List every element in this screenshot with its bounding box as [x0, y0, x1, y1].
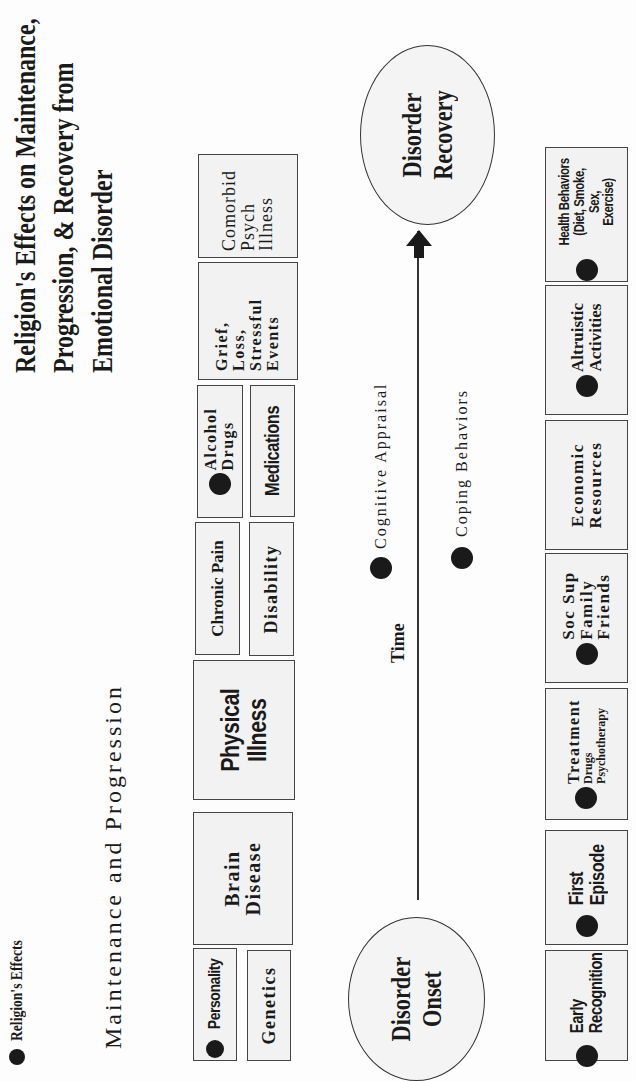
box-label: Treatment	[566, 699, 583, 784]
religion-effect-dot-icon	[575, 787, 597, 809]
religion-effect-dot-icon	[370, 557, 392, 579]
religion-effect-dot-icon	[451, 547, 473, 569]
box-social-support: Soc SupFamilyFriends	[545, 553, 628, 683]
box-altruistic-activities: AltruisticActivities	[545, 285, 628, 415]
title-line-1: Religion's Effects on Maintenance,	[6, 18, 44, 373]
religion-effect-dot-icon	[576, 915, 598, 937]
box-alcohol-drugs: AlcoholDrugs	[197, 385, 243, 518]
box-label: Drugs	[582, 753, 595, 784]
box-label: Alcohol	[203, 408, 220, 471]
box-label: Friends	[595, 574, 613, 640]
box-label: Physical	[217, 688, 244, 771]
box-label: Exercise)	[601, 178, 616, 225]
box-label: Personality	[206, 959, 224, 1030]
box-label: (Diet, Smoke, Sex,	[572, 158, 601, 247]
religion-effect-dot-icon	[576, 375, 598, 397]
box-label: Altruistic	[569, 303, 587, 372]
time-axis-line	[417, 231, 419, 900]
box-label: Loss,	[231, 328, 248, 371]
box-genetics: Genetics	[247, 950, 291, 1061]
box-label: Chronic Pain	[209, 540, 227, 637]
node-label: Recovery	[428, 90, 459, 180]
node-label: Disorder	[386, 957, 417, 1042]
coping-behaviors: Coping Behaviors	[451, 389, 473, 569]
node-label: Disorder	[397, 93, 428, 178]
box-label: Recognition	[587, 953, 606, 1034]
box-comorbid-psych-illness: ComorbidPsychIllness	[198, 154, 298, 258]
religion-effect-dot-icon	[576, 643, 598, 665]
box-grief-loss-stressful-events: Grief,Loss,StressfulEvents	[198, 262, 298, 380]
box-label: Disease	[243, 842, 264, 916]
box-label: Stressful	[248, 298, 265, 371]
box-label: Comorbid	[220, 170, 239, 251]
legend-label: Religion's Effects	[8, 940, 26, 1041]
religion-effect-dot-icon	[206, 1040, 224, 1058]
box-chronic-pain: Chronic Pain	[195, 522, 240, 655]
cognitive-appraisal: Cognitive Appraisal	[370, 383, 392, 579]
box-label: First	[566, 872, 587, 905]
box-label: Genetics	[260, 967, 279, 1045]
title-line-2: Progression, & Recovery from	[44, 18, 82, 373]
box-label: Resources	[587, 442, 605, 529]
box-physical-illness: PhysicalIllness	[193, 660, 295, 800]
title-line-3: Emotional Disorder	[83, 18, 121, 373]
box-economic-resources: EconomicResources	[545, 420, 628, 550]
box-label: Brain	[222, 850, 243, 906]
coping-behaviors-label: Coping Behaviors	[453, 389, 471, 537]
box-label: Events	[265, 316, 282, 371]
box-label: Psych	[239, 203, 258, 251]
box-health-behaviors: Health Behaviors(Diet, Smoke, Sex,Exerci…	[545, 147, 628, 282]
box-label: Illness	[257, 197, 276, 251]
box-label: Grief,	[214, 322, 231, 371]
node-label: Onset	[417, 971, 448, 1027]
box-label: Episode	[587, 845, 608, 906]
box-disability: Disability	[249, 522, 294, 656]
box-brain-disease: BrainDisease	[193, 812, 293, 945]
page-title: Religion's Effects on Maintenance, Progr…	[6, 18, 121, 373]
box-label: Illness	[244, 698, 271, 761]
box-early-recognition: EarlyRecognition	[545, 950, 628, 1061]
box-label: Disability	[262, 545, 281, 634]
disorder-onset-node: Disorder Onset	[348, 917, 485, 1081]
box-medications: Medications	[250, 385, 295, 517]
box-label: Soc Sup	[560, 571, 578, 640]
box-label: Medications	[262, 406, 283, 496]
cognitive-appraisal-label: Cognitive Appraisal	[372, 383, 390, 549]
legend: Religion's Effects	[8, 922, 26, 1065]
box-label: Psychotherapy	[595, 708, 608, 784]
religion-effect-dot-icon	[209, 473, 231, 495]
box-personality: Personality	[193, 948, 237, 1061]
box-treatment: TreatmentDrugsPsychotherapy	[545, 688, 628, 820]
religion-effect-dot-icon	[576, 259, 598, 281]
box-label: Drugs	[220, 421, 237, 470]
section-label: Maintenance and Progression	[100, 684, 127, 1049]
time-label: Time	[388, 623, 409, 663]
religion-effect-dot-icon	[576, 1045, 598, 1067]
box-label: Activities	[587, 304, 605, 372]
arrow-right-icon	[406, 228, 432, 258]
disorder-recovery-node: Disorder Recovery	[360, 45, 495, 225]
religion-effect-dot-icon	[9, 1049, 25, 1065]
box-label: Economic	[569, 443, 587, 527]
box-label: Early	[568, 999, 587, 1033]
box-label: Family	[578, 580, 596, 640]
box-first-episode: FirstEpisode	[545, 830, 628, 945]
box-label: Health Behaviors	[557, 158, 572, 245]
